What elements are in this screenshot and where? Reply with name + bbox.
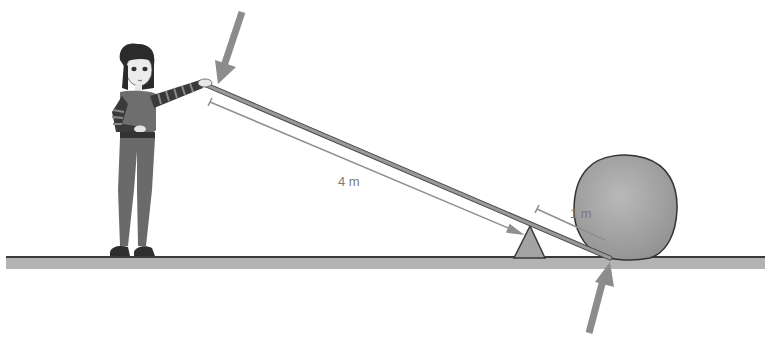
effort-arm-dimension [208,98,522,234]
load-arm-label: 1 m [570,206,592,221]
effort-force-arrow [215,12,242,84]
woman-figure [110,43,212,256]
lever-diagram: 4 m 1 m [0,0,771,343]
effort-arm-label: 4 m [338,174,360,189]
load-force-arrow [589,262,614,333]
lever-bar [204,84,610,258]
